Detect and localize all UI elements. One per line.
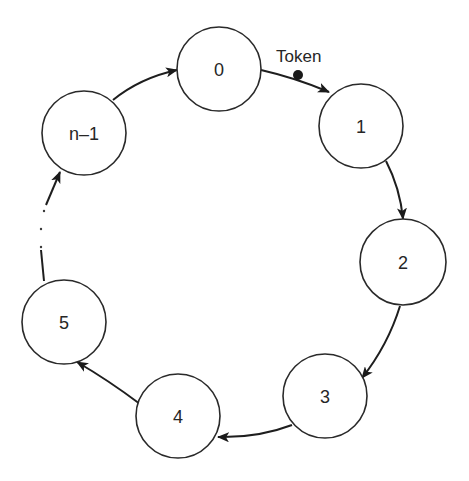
edge-2-to-3: [362, 306, 400, 378]
edge-1-to-2: [386, 161, 403, 219]
node-label: 2: [398, 253, 408, 273]
node-3: 3: [283, 354, 367, 438]
node-label: 4: [173, 407, 183, 427]
node-label: 3: [320, 387, 330, 407]
node-5: 5: [22, 280, 106, 364]
node-1: 1: [319, 84, 403, 168]
node-0: 0: [177, 27, 261, 111]
node-label: 0: [214, 60, 224, 80]
edge-4-to-5: [77, 362, 140, 404]
node-label: n–1: [69, 124, 99, 144]
node-label: 1: [356, 117, 366, 137]
node-2: 2: [360, 219, 446, 305]
ellipsis-dot: [40, 246, 42, 248]
token-dot: [293, 70, 303, 80]
ellipsis-dot: [40, 228, 42, 230]
ellipsis-dot: [43, 210, 45, 212]
node-4: 4: [136, 374, 220, 458]
edge-5-to-n-1-upper: [46, 172, 60, 205]
edge-5-to-n-1-lower: [41, 250, 44, 281]
token-ring-diagram: Token 0 1 2 3 4 5 n–1: [0, 0, 469, 481]
token-label: Token: [276, 47, 321, 66]
edge-n-1-to-0: [113, 70, 177, 100]
edge-3-to-4: [218, 425, 292, 437]
node-label: 5: [59, 313, 69, 333]
node-n-1: n–1: [42, 91, 126, 175]
